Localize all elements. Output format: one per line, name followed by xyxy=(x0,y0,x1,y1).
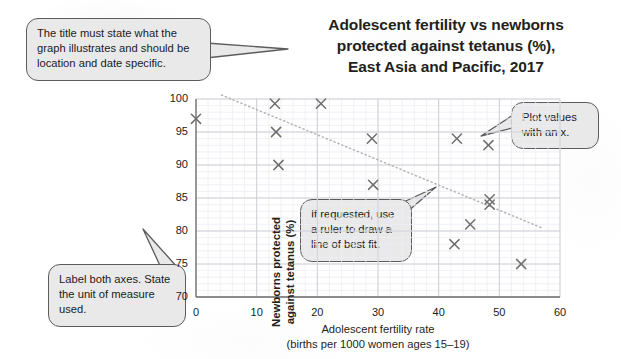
x-axis-title: Adolescent fertility rate (births per 10… xyxy=(196,322,560,351)
x-axis-title-main: Adolescent fertility rate xyxy=(196,322,560,337)
x-axis-tick-label: 60 xyxy=(547,306,573,318)
y-axis-tick-label: 70 xyxy=(162,290,188,302)
y-axis-tick-label: 80 xyxy=(162,224,188,236)
y-axis-tick-label: 95 xyxy=(162,125,188,137)
x-axis-tick-label: 0 xyxy=(183,306,209,318)
data-point-marker xyxy=(485,195,494,204)
scatter-chart: Newborns protected against tetanus (%) A… xyxy=(0,0,621,359)
x-axis-tick-label: 40 xyxy=(426,306,452,318)
x-axis-tick-label: 30 xyxy=(365,306,391,318)
data-point-marker xyxy=(270,99,279,108)
x-axis-tick-label: 50 xyxy=(486,306,512,318)
y-axis-title-line-2: against tetanus (%) xyxy=(284,214,298,330)
y-axis-tick-label: 100 xyxy=(162,92,188,104)
y-axis-tick-label: 75 xyxy=(162,257,188,269)
trendline-best-fit xyxy=(221,95,543,228)
y-axis-tick-label: 90 xyxy=(162,158,188,170)
y-axis-title: Newborns protected against tetanus (%) xyxy=(112,140,148,260)
x-axis-title-sub: (births per 1000 women ages 15–19) xyxy=(196,337,560,352)
y-axis-tick-label: 85 xyxy=(162,191,188,203)
x-axis-tick-label: 10 xyxy=(244,306,270,318)
x-axis-tick-label: 20 xyxy=(304,306,330,318)
y-axis-title-line-1: Newborns protected xyxy=(270,214,284,330)
